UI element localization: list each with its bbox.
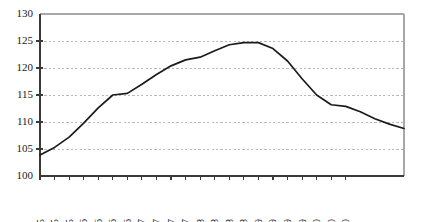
x-tick-label: Jun-05 [35, 219, 46, 222]
x-tick-label: Mar-08 [195, 219, 206, 222]
x-tick-label: Dec-06 [122, 219, 133, 222]
x-tick-label: Mar-06 [78, 219, 89, 222]
x-tick-label: Sep-10 [340, 219, 351, 222]
data-series-line [40, 43, 404, 155]
x-tick-label: Mar-09 [253, 219, 264, 222]
x-axis-ticks: Jun-05Sep-05Dec-05Mar-06Jun-06Sep-06Dec-… [35, 176, 352, 222]
y-axis-ticks: 100105110115120125130 [17, 7, 44, 181]
x-tick-label: Dec-08 [238, 219, 249, 222]
y-tick-label: 100 [17, 169, 34, 181]
y-tick-label: 105 [17, 142, 34, 154]
y-tick-label: 120 [17, 61, 34, 73]
line-chart: 100105110115120125130 Jun-05Sep-05Dec-05… [0, 0, 422, 222]
x-tick-label: Jun-06 [93, 219, 104, 222]
x-tick-label: Sep-09 [282, 219, 293, 222]
x-tick-label: Sep-05 [49, 219, 60, 222]
y-tick-label: 130 [17, 7, 34, 19]
x-tick-label: Jun-08 [209, 219, 220, 222]
x-tick-label: Dec-05 [64, 219, 75, 222]
gridlines-group [40, 41, 404, 149]
x-tick-label: Jun-10 [326, 219, 337, 222]
x-tick-label: Dec-09 [297, 219, 308, 222]
x-tick-label: Sep-08 [224, 219, 235, 222]
x-tick-label: Jun-09 [267, 219, 278, 222]
y-tick-label: 110 [17, 115, 34, 127]
x-tick-label: Sep-06 [107, 219, 118, 222]
x-tick-label: Dec-07 [180, 219, 191, 222]
x-tick-label: Jun-07 [151, 219, 162, 222]
y-tick-label: 115 [17, 88, 34, 100]
y-tick-label: 125 [17, 34, 34, 46]
x-tick-label: Mar-07 [136, 219, 147, 222]
x-tick-label: Mar-10 [311, 219, 322, 222]
chart-container: 100105110115120125130 Jun-05Sep-05Dec-05… [0, 0, 422, 222]
x-tick-label: Sep-07 [166, 219, 177, 222]
